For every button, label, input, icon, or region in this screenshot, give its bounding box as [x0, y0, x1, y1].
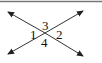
angle-label-2: 2 [56, 27, 63, 42]
line-b-ray-lower-left [8, 33, 45, 54]
line-a-ray-lower-right [45, 33, 83, 56]
line-a-ray-upper-left [8, 12, 45, 33]
angle-diagram: 3 1 2 4 [0, 0, 102, 63]
angle-label-1: 1 [30, 27, 37, 42]
angle-label-4: 4 [41, 35, 48, 50]
line-b-ray-upper-right [45, 11, 83, 33]
angle-label-3: 3 [42, 18, 49, 33]
